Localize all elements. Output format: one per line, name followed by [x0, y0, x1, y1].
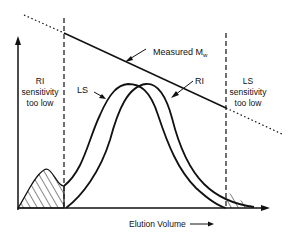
x-label-arrow-icon: [208, 222, 214, 227]
measured-mw-line: [24, 15, 282, 134]
sec-ls-ri-diagram: Measured Mw LS RI RI sensitivity too low…: [0, 0, 291, 237]
y-axis-arrow-icon: [15, 36, 21, 45]
ls-low-hatched-region: [226, 191, 255, 208]
leader-arrow-icon: [125, 56, 133, 62]
ls-curve-label: LS: [77, 85, 88, 95]
ls-sensitivity-label: LS sensitivity too low: [230, 76, 268, 108]
svg-text:RI: RI: [36, 76, 45, 86]
ls-curve: [64, 84, 226, 208]
x-axis-arrow-icon: [261, 205, 270, 211]
leader-arrow-icon: [99, 94, 106, 99]
measured-mw-leader: [125, 49, 146, 62]
svg-text:LS: LS: [243, 76, 254, 86]
ri-sensitivity-label: RI sensitivity too low: [22, 76, 60, 108]
ls-leader: [94, 92, 106, 99]
leader-arrow-icon: [171, 91, 179, 98]
measured-mw-label: Measured Mw: [153, 47, 208, 58]
svg-text:too low: too low: [27, 98, 55, 108]
svg-text:sensitivity: sensitivity: [22, 87, 60, 97]
y-axis: [15, 36, 21, 210]
svg-text:too low: too low: [235, 98, 263, 108]
ri-low-hatched-region: [18, 169, 64, 208]
ri-curve-label: RI: [195, 76, 204, 86]
svg-text:Elution Volume: Elution Volume: [129, 219, 186, 229]
x-axis-label: Elution Volume: [129, 219, 214, 229]
svg-text:sensitivity: sensitivity: [230, 87, 268, 97]
